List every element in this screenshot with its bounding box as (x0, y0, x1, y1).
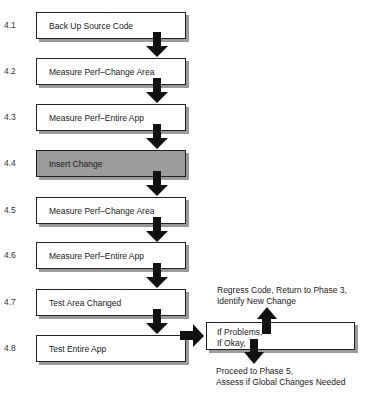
step-label: Test Entire App (49, 344, 106, 354)
step-number: 4.3 (4, 112, 30, 122)
step-label: Back Up Source Code (49, 21, 133, 31)
step-number: 4.7 (4, 297, 30, 307)
down-arrow-icon (145, 78, 169, 104)
problems-outcome-line2: Identify New Change (217, 296, 347, 307)
down-arrow-icon (145, 171, 169, 197)
problems-outcome-text: Regress Code, Return to Phase 3, Identif… (217, 285, 347, 307)
step-number: 4.2 (4, 66, 30, 76)
decision-okay-label: If Okay, (217, 338, 246, 348)
problems-outcome-line1: Regress Code, Return to Phase 3, (217, 285, 347, 296)
step-label: Insert Change (49, 159, 102, 169)
step-number: 4.6 (4, 250, 30, 260)
step-label: Measure Perf–Entire App (49, 251, 144, 261)
step-label: Test Area Changed (49, 298, 121, 308)
step-label: Measure Perf–Entire App (49, 113, 144, 123)
up-arrow-icon (256, 307, 278, 335)
okay-outcome-text: Proceed to Phase 5, Assess if Global Cha… (216, 366, 345, 388)
step-box-test-entire-app: Test Entire App (36, 335, 186, 362)
step-number: 4.4 (4, 158, 30, 168)
step-label: Measure Perf–Change Area (49, 67, 154, 77)
okay-outcome-line1: Proceed to Phase 5, (216, 366, 345, 377)
decision-box: If Problems, If Okay, (206, 322, 355, 350)
step-label: Measure Perf–Change Area (49, 206, 154, 216)
down-arrow-icon (145, 309, 169, 335)
step-number: 4.5 (4, 205, 30, 215)
down-arrow-icon (243, 339, 265, 365)
down-arrow-icon (145, 217, 169, 243)
right-arrow-icon (180, 324, 206, 348)
step-number: 4.8 (4, 343, 30, 353)
down-arrow-icon (145, 32, 169, 58)
down-arrow-icon (145, 263, 169, 289)
step-number: 4.1 (4, 20, 30, 30)
down-arrow-icon (145, 124, 169, 150)
okay-outcome-line2: Assess if Global Changes Needed (216, 377, 345, 388)
